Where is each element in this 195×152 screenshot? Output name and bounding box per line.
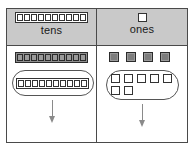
body-cell-tens [7,46,97,142]
rod-segment [66,14,72,21]
unit-cube-gray-icon [143,52,153,62]
grouped-cubes-ones [111,74,175,95]
unit-cube-gray-icon [126,52,136,62]
unit-cube-icon [124,74,133,83]
loose-cubes-ones [109,52,170,62]
down-arrow-icon-ones [138,104,147,128]
rod-segment [80,14,86,21]
rod-segment [24,54,30,61]
column-label-ones: ones [130,23,155,36]
rod-segment [24,14,30,21]
unit-cube-icon [138,13,147,22]
arrow-head [49,116,55,123]
place-value-chart: tens ones [6,8,188,143]
rod-segment [59,14,65,21]
unit-cube-icon [163,74,172,83]
rod-segment [18,80,24,87]
body-cell-ones [97,46,187,142]
rod-segment [74,80,80,87]
rod-segment [67,80,73,87]
rod-segment [39,80,45,87]
rod-segment [31,54,37,61]
arrow-head [139,120,145,127]
rod-segment [52,54,58,61]
rod-segment [81,80,87,87]
rod-segment [73,54,79,61]
ten-rod-grouped-icon [16,78,89,89]
header-cell-tens: tens [7,9,97,45]
rod-segment [60,80,66,87]
column-label-tens: tens [41,24,63,37]
rod-segment [80,54,86,61]
rod-segment [52,14,58,21]
unit-cube-icon [137,74,146,83]
unit-cube-gray-icon [160,52,170,62]
ten-rod-icon [15,12,88,23]
rod-segment [53,80,59,87]
rod-segment [17,14,23,21]
chart-body-row [7,46,187,142]
rod-segment [17,54,23,61]
rod-segment [59,54,65,61]
rod-segment [73,14,79,21]
unit-cube-icon [111,74,120,83]
rod-segment [25,80,31,87]
unit-cube-icon [124,86,133,95]
rod-segment [45,14,51,21]
unit-cube-icon [150,74,159,83]
unit-cube-gray-icon [109,52,119,62]
ten-rod-gray-icon [15,52,88,63]
rod-segment [38,54,44,61]
rod-segment [45,54,51,61]
rod-segment [32,80,38,87]
unit-cube-icon [111,86,120,95]
rod-segment [31,14,37,21]
rod-segment [38,14,44,21]
rod-segment [66,54,72,61]
header-cell-ones: ones [97,9,187,45]
rod-segment [46,80,52,87]
chart-header-row: tens ones [7,9,187,46]
down-arrow-icon-tens [48,100,57,124]
